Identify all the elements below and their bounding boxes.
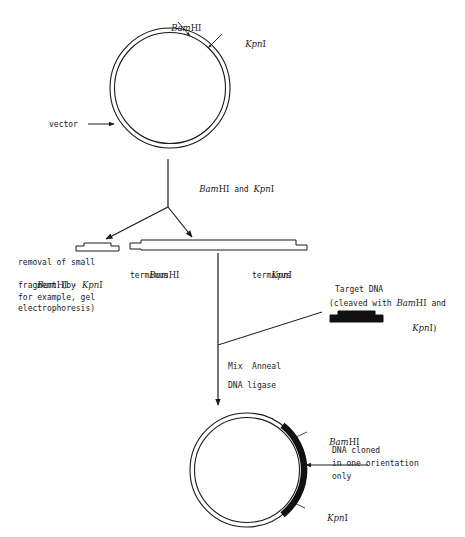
ligation-label-line2: DNA ligase (228, 380, 276, 392)
small-fragment-shape (76, 243, 119, 251)
target-dna-title: Target DNA (335, 284, 383, 296)
target-dna-caption-line2: (cleaved with BamHI and (329, 298, 446, 310)
cloned-dna-callout-line1: DNA cloned (332, 445, 380, 457)
linearized-vector-shape (130, 240, 307, 250)
cloned-insert-arc (283, 425, 305, 514)
bamhi-terminus-word: terminus (130, 270, 169, 282)
ligation-label-line1: Mix Anneal (228, 361, 281, 373)
small-fragment-caption-line4: for example, gel (18, 292, 95, 304)
small-fragment-caption-line1: removal of small (18, 257, 95, 269)
bottom-plasmid-kpni-label: KpnI (308, 502, 348, 535)
cloned-dna-callout-line3: only (332, 471, 351, 483)
small-fragment-caption-line5: electrophoresis) (18, 303, 95, 315)
cloned-dna-callout-line2: in one orientation (332, 458, 419, 470)
top-plasmid-rings (110, 28, 230, 148)
top-plasmid-bamhi-label: BamHI (152, 12, 201, 45)
cloning-diagram-page: BamHI KpnI vector BamHI and KpnI removal… (0, 0, 465, 537)
target-dna-caption-line3: KpnI) (393, 311, 436, 346)
top-plasmid-kpni-label: KpnI (226, 28, 266, 61)
digest-enzymes-label: BamHI and KpnI (180, 172, 274, 207)
target-dna-shape (330, 311, 383, 322)
small-fragment-caption-line3: fragment (by (18, 280, 76, 292)
kpni-terminus-word: terminus (252, 270, 291, 282)
vector-label: vector (49, 119, 78, 130)
